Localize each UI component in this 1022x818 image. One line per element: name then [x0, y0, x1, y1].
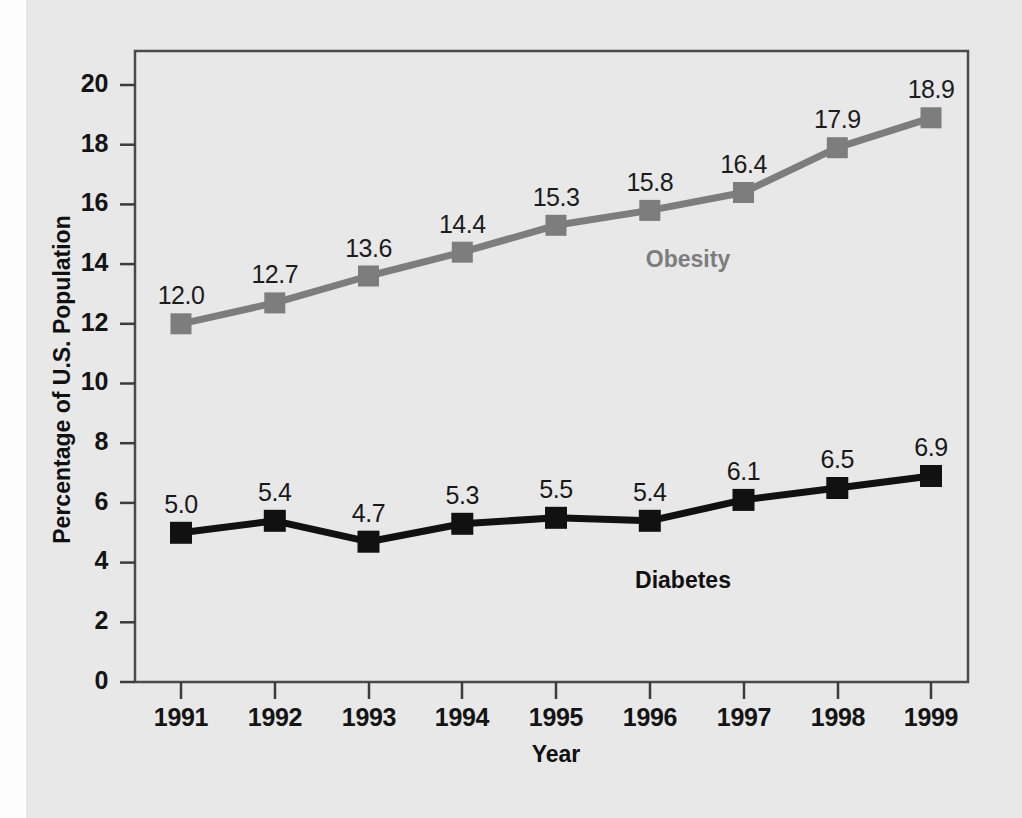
- diabetes-point-label-1991: 5.0: [141, 490, 221, 519]
- x-axis-title: Year: [451, 741, 661, 768]
- y-axis-title: Percentage of U.S. Population: [49, 200, 76, 560]
- diabetes-point-label-1993: 4.7: [329, 499, 409, 528]
- x-tick-label-1995: 1995: [509, 703, 603, 732]
- x-tick-label-1998: 1998: [791, 703, 885, 732]
- y-tick-label-2: 2: [48, 606, 108, 635]
- obesity-point-label-1998: 17.9: [797, 105, 877, 134]
- obesity-point-label-1995: 15.3: [516, 183, 596, 212]
- diabetes-point-label-1995: 5.5: [516, 475, 596, 504]
- series-inline-label-diabetes: Diabetes: [583, 567, 783, 594]
- x-tick-label-1992: 1992: [228, 703, 322, 732]
- x-axis-ticks: [181, 682, 931, 699]
- obesity-point-label-1996: 15.8: [610, 168, 690, 197]
- obesity-point-label-1991: 12.0: [141, 281, 221, 310]
- line-chart-figure: 20 18 16 14 12 10 8 6 4 2 0 1991 1992 19…: [0, 0, 1022, 818]
- y-tick-label-0: 0: [48, 666, 108, 695]
- obesity-point-label-1997: 16.4: [704, 150, 784, 179]
- obesity-point-label-1993: 13.6: [329, 234, 409, 263]
- obesity-point-label-1999: 18.9: [891, 75, 971, 104]
- x-tick-label-1996: 1996: [603, 703, 697, 732]
- x-tick-label-1997: 1997: [697, 703, 791, 732]
- y-tick-label-20: 20: [48, 69, 108, 98]
- obesity-point-label-1992: 12.7: [235, 260, 315, 289]
- diabetes-point-label-1997: 6.1: [704, 457, 784, 486]
- obesity-point-label-1994: 14.4: [422, 210, 502, 239]
- x-tick-label-1991: 1991: [134, 703, 228, 732]
- x-tick-label-1994: 1994: [415, 703, 509, 732]
- page-canvas: 20 18 16 14 12 10 8 6 4 2 0 1991 1992 19…: [0, 0, 1022, 818]
- diabetes-point-label-1998: 6.5: [797, 445, 877, 474]
- series-inline-label-obesity: Obesity: [588, 246, 788, 273]
- x-tick-label-1993: 1993: [322, 703, 416, 732]
- x-tick-label-1999: 1999: [884, 703, 978, 732]
- y-axis-ticks: [120, 85, 135, 682]
- diabetes-point-label-1994: 5.3: [422, 481, 502, 510]
- y-tick-label-18: 18: [48, 129, 108, 158]
- diabetes-point-label-1999: 6.9: [891, 433, 971, 462]
- diabetes-point-label-1996: 5.4: [610, 478, 690, 507]
- diabetes-point-label-1992: 5.4: [235, 478, 315, 507]
